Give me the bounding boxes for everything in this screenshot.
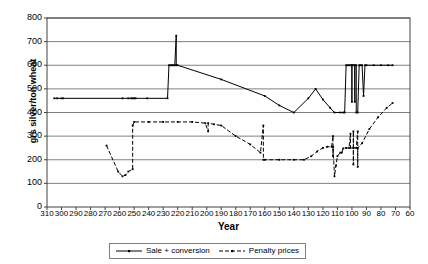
- series-line-1: [107, 103, 393, 176]
- chart-container: grs silver/ton wheat 8007006005004003002…: [0, 0, 428, 264]
- series-marker: [344, 112, 346, 114]
- series-marker: [132, 168, 134, 170]
- series-marker: [264, 159, 266, 161]
- series-marker: [387, 64, 389, 66]
- series-marker: [337, 155, 339, 157]
- series-marker: [355, 64, 357, 66]
- series-marker: [303, 159, 305, 161]
- series-marker: [127, 97, 129, 99]
- series-marker: [332, 135, 334, 137]
- series-marker: [345, 147, 347, 149]
- series-marker: [322, 147, 324, 149]
- series-marker: [310, 155, 312, 157]
- series-marker: [392, 102, 394, 104]
- series-marker: [132, 125, 134, 127]
- series-marker: [361, 64, 363, 66]
- series-marker: [204, 122, 206, 124]
- series-marker: [342, 148, 344, 150]
- legend-entry: Sale + conversion: [116, 247, 210, 255]
- x-axis-title: Year: [47, 221, 410, 232]
- series-marker: [127, 171, 129, 173]
- series-marker: [133, 121, 135, 123]
- legend-label: Sale + conversion: [146, 247, 210, 255]
- legend-label: Penalty prices: [249, 247, 299, 255]
- legend-entry: Penalty prices: [219, 247, 299, 255]
- series-marker: [316, 151, 318, 153]
- series-marker: [53, 97, 55, 99]
- series-marker: [334, 175, 336, 177]
- series-marker: [357, 147, 359, 149]
- legend-swatch-dashed-icon: [219, 247, 245, 255]
- series-marker: [191, 121, 193, 123]
- series-marker: [357, 131, 359, 133]
- series-marker: [392, 64, 394, 66]
- series-marker: [235, 135, 237, 137]
- series-marker: [220, 125, 222, 127]
- series-marker: [361, 142, 363, 144]
- series-marker: [62, 97, 64, 99]
- series-marker: [332, 155, 334, 157]
- series-marker: [148, 121, 150, 123]
- series-marker: [380, 64, 382, 66]
- series-marker: [315, 88, 317, 90]
- series-marker: [220, 79, 222, 81]
- series-marker: [122, 175, 124, 177]
- series-marker: [352, 147, 354, 149]
- series-marker: [249, 143, 251, 145]
- series-marker: [293, 159, 295, 161]
- series-marker: [213, 123, 215, 125]
- series-marker: [207, 131, 209, 133]
- series-marker: [329, 107, 331, 109]
- series-marker: [135, 97, 137, 99]
- series-marker: [106, 145, 108, 147]
- series-marker: [339, 112, 341, 114]
- series-marker: [354, 101, 356, 103]
- series-marker: [351, 101, 353, 103]
- series-marker: [146, 97, 148, 99]
- series-marker: [335, 165, 337, 167]
- series-marker: [341, 152, 343, 154]
- series-marker: [386, 107, 388, 109]
- series-marker: [177, 64, 179, 66]
- series-marker: [350, 133, 352, 135]
- series-marker: [332, 146, 334, 148]
- series-marker: [117, 171, 119, 173]
- x-tick-label: 60: [397, 209, 423, 219]
- series-marker: [122, 97, 124, 99]
- series-marker: [350, 147, 352, 149]
- legend-swatch-solid-icon: [116, 247, 142, 255]
- series-marker: [322, 99, 324, 101]
- series-marker: [357, 112, 359, 114]
- series-marker: [307, 97, 309, 99]
- x-axis-tick-labels: 3103002902802702602502402302202102001901…: [47, 209, 410, 221]
- series-marker: [326, 146, 328, 148]
- series-marker: [293, 112, 295, 114]
- series-marker: [368, 128, 370, 130]
- series-marker: [177, 121, 179, 123]
- series-marker: [363, 95, 365, 97]
- series-marker: [352, 131, 354, 133]
- series-marker: [175, 35, 177, 37]
- series-marker: [56, 97, 58, 99]
- series-marker: [278, 105, 280, 107]
- series-marker: [373, 64, 375, 66]
- series-marker: [260, 152, 262, 154]
- series-marker: [125, 174, 127, 176]
- series-marker: [366, 64, 368, 66]
- series-marker: [334, 112, 336, 114]
- series-marker: [278, 159, 280, 161]
- series-marker: [262, 125, 264, 127]
- chart-legend: Sale + conversionPenalty prices: [109, 243, 306, 259]
- series-marker: [264, 95, 266, 97]
- series-marker: [167, 97, 169, 99]
- series-marker: [207, 122, 209, 124]
- series-line-0: [54, 36, 392, 113]
- series-marker: [357, 166, 359, 168]
- series-marker: [352, 164, 354, 166]
- series-marker: [162, 121, 164, 123]
- series-marker: [377, 116, 379, 118]
